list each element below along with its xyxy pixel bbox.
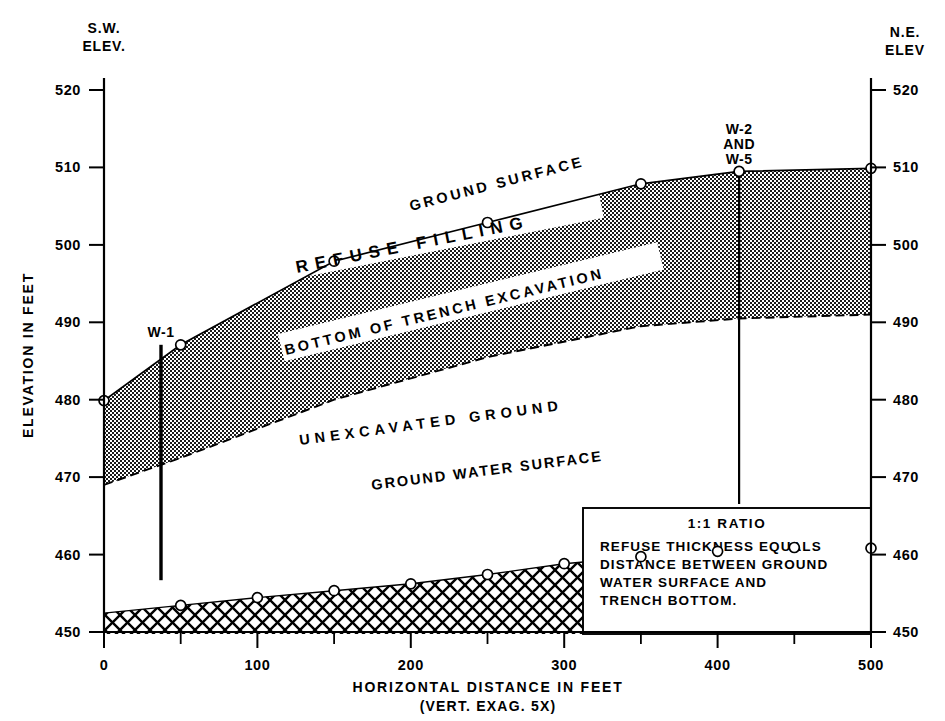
sw-elev-label-line2: ELEV. [82, 38, 125, 54]
svg-text:0: 0 [100, 657, 109, 673]
cross-section-figure: 1:1 RATIO REFUSE THICKNESS EQUALS DISTAN… [0, 0, 945, 721]
note-line-4: TRENCH BOTTOM. [600, 593, 737, 608]
svg-text:400: 400 [705, 657, 731, 673]
svg-text:520: 520 [55, 82, 81, 98]
data-point [636, 552, 646, 562]
note-ratio-label: 1:1 RATIO [688, 516, 767, 531]
svg-text:300: 300 [551, 657, 577, 673]
svg-text:500: 500 [55, 237, 81, 253]
data-point [636, 179, 646, 189]
svg-text:470: 470 [55, 469, 81, 485]
data-point [559, 559, 569, 569]
well-w2-w5-label-line2: AND [723, 136, 755, 152]
well-w2-w5-label-line1: W-2 [726, 121, 753, 137]
svg-text:200: 200 [398, 657, 424, 673]
data-point [483, 570, 493, 580]
svg-text:100: 100 [244, 657, 270, 673]
svg-text:470: 470 [893, 469, 919, 485]
y-axis-title: ELEVATION IN FEET [20, 272, 36, 438]
svg-text:460: 460 [55, 547, 81, 563]
x-tick-labels: 0 100 200 300 400 500 [100, 657, 884, 673]
svg-text:510: 510 [55, 159, 81, 175]
data-point [406, 579, 416, 589]
data-point [713, 546, 723, 556]
y-tick-labels-right: 450 460 470 480 490 500 510 520 [893, 82, 919, 640]
ne-elev-label-line1: N.E. [890, 24, 920, 40]
svg-text:510: 510 [893, 159, 919, 175]
svg-text:460: 460 [893, 547, 919, 563]
note-line-2: DISTANCE BETWEEN GROUND [600, 557, 828, 572]
well-w2-w5-label-line3: W-5 [726, 151, 753, 167]
cross-section-chart: 1:1 RATIO REFUSE THICKNESS EQUALS DISTAN… [0, 0, 945, 721]
sw-elev-label-line1: S.W. [88, 20, 121, 36]
svg-text:490: 490 [55, 314, 81, 330]
svg-text:500: 500 [858, 657, 884, 673]
data-point [734, 166, 744, 176]
well-w1-label: W-1 [148, 324, 175, 340]
data-point [789, 543, 799, 553]
svg-text:480: 480 [893, 392, 919, 408]
data-point [329, 586, 339, 596]
svg-text:500: 500 [893, 237, 919, 253]
x-axis-subtitle: (VERT. EXAG. 5X) [420, 698, 557, 714]
svg-text:490: 490 [893, 314, 919, 330]
y-tick-labels-left: 450 460 470 480 490 500 510 520 [55, 82, 81, 640]
data-point [176, 340, 186, 350]
svg-text:480: 480 [55, 392, 81, 408]
svg-text:450: 450 [893, 624, 919, 640]
data-point [176, 600, 186, 610]
label-ground-water-surface: GROUND WATER SURFACE [370, 448, 603, 493]
note-line-3: WATER SURFACE AND [600, 575, 767, 590]
svg-text:520: 520 [893, 82, 919, 98]
ne-elev-label-line2: ELEV [885, 42, 925, 58]
y-ticks-left [89, 90, 104, 632]
label-unexcavated-ground: UNEXCAVATED GROUND [298, 397, 563, 448]
x-axis-title: HORIZONTAL DISTANCE IN FEET [352, 679, 623, 695]
data-point [252, 593, 262, 603]
svg-text:450: 450 [55, 624, 81, 640]
